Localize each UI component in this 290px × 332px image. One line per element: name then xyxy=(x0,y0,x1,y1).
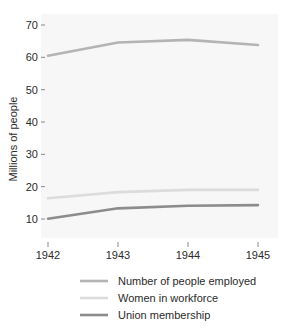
legend-item[interactable]: Women in workforce xyxy=(80,292,218,304)
x-axis-tick-marks xyxy=(48,242,258,247)
y-axis-tick-label: 60 xyxy=(26,51,38,63)
x-axis-tick-label: 1945 xyxy=(246,249,270,261)
x-axis-tick-label: 1943 xyxy=(106,249,130,261)
y-axis-tick-label: 30 xyxy=(26,148,38,160)
y-axis-tick-label: 50 xyxy=(26,84,38,96)
y-axis-tick-label: 40 xyxy=(26,116,38,128)
chart-canvas: 70605040302010 1942194319441945 Millions… xyxy=(0,0,290,332)
legend-item[interactable]: Union membership xyxy=(80,309,210,321)
y-axis-tick-label: 70 xyxy=(26,19,38,31)
chart-legend: Number of people employedWomen in workfo… xyxy=(80,275,256,321)
y-axis-tick-label: 10 xyxy=(26,213,38,225)
x-axis-tick-labels: 1942194319441945 xyxy=(36,249,270,261)
legend-item-label: Union membership xyxy=(118,309,210,321)
y-axis-title: Millions of people xyxy=(7,97,19,182)
y-axis-tick-label: 20 xyxy=(26,181,38,193)
x-axis-tick-label: 1944 xyxy=(176,249,200,261)
x-axis-tick-label: 1942 xyxy=(36,249,60,261)
legend-item[interactable]: Number of people employed xyxy=(80,275,256,287)
line-chart: 70605040302010 1942194319441945 Millions… xyxy=(0,0,290,332)
legend-item-label: Women in workforce xyxy=(118,292,218,304)
y-axis-tick-labels: 70605040302010 xyxy=(26,19,38,225)
legend-item-label: Number of people employed xyxy=(118,275,256,287)
